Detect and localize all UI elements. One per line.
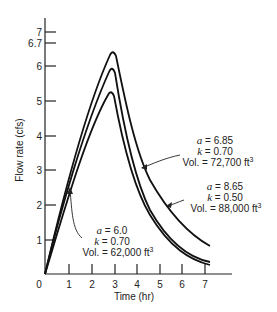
annotation-a60: a = 6.0 k = 0.70 Vol. = 62,000 ft3: [83, 224, 154, 258]
y-tick-2: 2: [36, 200, 42, 211]
svg-text:a = 8.65: a = 8.65: [207, 180, 244, 192]
annotation-a685: a = 6.85 k = 0.70 Vol. = 72,700 ft3: [183, 134, 254, 168]
y-axis-label: Flow rate (cfs): [14, 118, 25, 181]
svg-text:a = 6.85: a = 6.85: [197, 134, 234, 146]
svg-text:Vol. = 88,000 ft3: Vol. = 88,000 ft3: [191, 202, 262, 214]
svg-text:k = 0.70: k = 0.70: [197, 145, 233, 157]
svg-text:k = 0.70: k = 0.70: [94, 235, 130, 247]
x-tick-2: 2: [89, 279, 95, 290]
x-axis-label: Time (hr): [114, 291, 154, 302]
x-tick-4: 4: [134, 279, 140, 290]
x-tick-0: 0: [36, 279, 42, 290]
x-tick-6: 6: [179, 279, 185, 290]
y-tick-4: 4: [36, 131, 42, 142]
arrow-heads: [67, 164, 172, 208]
y-tick-7: 7: [36, 27, 42, 38]
y-tick-6: 6: [36, 61, 42, 72]
x-tick-7: 7: [202, 279, 208, 290]
y-tick-1: 1: [36, 235, 42, 246]
svg-text:Vol. = 62,000 ft3: Vol. = 62,000 ft3: [83, 246, 154, 258]
annotation-a865: a = 8.65 k = 0.50 Vol. = 88,000 ft3: [191, 180, 262, 214]
svg-text:a = 6.0: a = 6.0: [97, 224, 128, 236]
x-tick-labels: 0 1 2 3 4 5 6 7: [36, 279, 208, 290]
y-tick-6-7: 6.7: [28, 38, 42, 49]
svg-text:Vol. = 72,700 ft3: Vol. = 72,700 ft3: [183, 156, 254, 168]
svg-text:k = 0.50: k = 0.50: [207, 191, 243, 203]
y-tick-labels: 1 2 3 4 5 6 6.7 7: [28, 27, 42, 246]
y-tick-5: 5: [36, 96, 42, 107]
hydrograph-chart: 1 2 3 4 5 6 6.7 7 0 1 2 3 4 5 6 7 Time (…: [0, 0, 277, 312]
x-tick-5: 5: [157, 279, 163, 290]
x-tick-1: 1: [66, 279, 72, 290]
y-tick-3: 3: [36, 165, 42, 176]
x-tick-3: 3: [112, 279, 118, 290]
